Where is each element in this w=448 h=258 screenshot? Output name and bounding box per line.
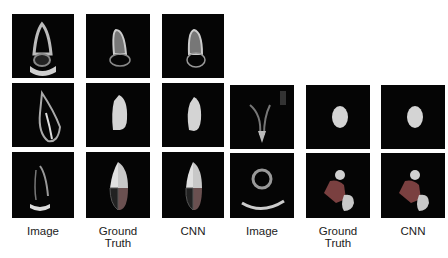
echo-image [12,14,74,78]
label-line2: Truth [105,237,131,249]
segmentation-mask [381,85,445,149]
right-row2-cnn [381,153,445,218]
segmentation-mask [86,152,150,218]
column-label-cnn: CNN [378,225,448,237]
left-row3-cnn [162,152,224,218]
left-row2-cnn [162,83,224,147]
segmentation-mask [162,14,224,78]
left-row1-image [12,14,74,78]
right-row1-ground-truth [306,85,370,149]
segmentation-mask [381,153,445,218]
right-row2-ground-truth [306,153,370,218]
segmentation-mask [86,14,150,78]
right-row2-image [230,153,294,218]
column-label-ground-truth: Ground Truth [83,225,153,249]
segmentation-mask [86,83,150,147]
left-row1-ground-truth [86,14,150,78]
segmentation-mask [162,152,224,218]
segmentation-mask [306,85,370,149]
segmentation-mask [306,153,370,218]
segmentation-mask [162,83,224,147]
left-row2-ground-truth [86,83,150,147]
left-row3-ground-truth [86,152,150,218]
column-label-ground-truth: Ground Truth [303,225,373,249]
label-line1: Ground [319,225,357,237]
label-line2: Truth [325,237,351,249]
right-row1-image [230,85,294,149]
label-line1: Ground [99,225,137,237]
echo-image [230,153,294,218]
echo-image [12,83,74,147]
left-row3-image [12,152,74,218]
echo-image [230,85,294,149]
column-label-image: Image [8,225,78,237]
echo-image [12,152,74,218]
right-row1-cnn [381,85,445,149]
left-row2-image [12,83,74,147]
column-label-image: Image [227,225,297,237]
left-row1-cnn [162,14,224,78]
column-label-cnn: CNN [158,225,228,237]
